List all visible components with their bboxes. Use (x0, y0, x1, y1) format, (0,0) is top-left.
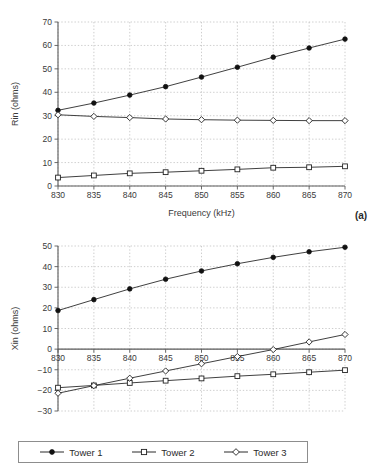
x-tick-label: 870 (338, 190, 352, 200)
open-diamond-icon (223, 447, 249, 457)
y-tick-label: 50 (43, 241, 53, 251)
data-point-marker (199, 75, 204, 80)
data-point-marker (271, 165, 276, 170)
chart-legend: Tower 1 Tower 2 Tower 3 (18, 441, 308, 463)
data-point-marker (271, 55, 276, 60)
x-tick-label: 865 (302, 353, 316, 363)
chart-b-svg: −30−20−100102030405083083584084585085586… (0, 232, 383, 422)
x-tick-label: 865 (302, 190, 316, 200)
data-point-marker (307, 165, 312, 170)
legend-label-tower-3: Tower 3 (253, 447, 286, 458)
data-point-marker (343, 368, 348, 373)
data-point-marker (199, 269, 204, 274)
x-tick-label: 870 (338, 353, 352, 363)
legend-item-tower-3[interactable]: Tower 3 (223, 447, 286, 458)
data-point-marker (91, 173, 96, 178)
data-point-marker (55, 112, 61, 118)
y-tick-label: 10 (43, 324, 53, 334)
data-point-marker (163, 368, 169, 374)
x-tick-label: 830 (51, 353, 65, 363)
data-point-marker (235, 65, 240, 70)
x-tick-label: 860 (266, 190, 280, 200)
chart-panel-a: 0102030405060708308358408458508558608658… (0, 0, 383, 232)
data-point-marker (55, 390, 61, 396)
y-tick-label: 30 (43, 111, 53, 121)
data-point-marker (271, 255, 276, 260)
figure-container: 0102030405060708308358408458508558608658… (0, 0, 383, 469)
data-point-marker (163, 378, 168, 383)
data-point-marker (343, 164, 348, 169)
x-tick-label: 860 (266, 353, 280, 363)
data-point-marker (163, 116, 169, 122)
open-square-icon (131, 447, 157, 457)
x-tick-label: 840 (123, 190, 137, 200)
data-point-marker (307, 46, 312, 51)
data-point-marker (307, 370, 312, 375)
data-point-marker (342, 118, 348, 124)
y-tick-label: 30 (43, 282, 53, 292)
panel-label: (a) (355, 210, 367, 221)
x-tick-label: 850 (194, 190, 208, 200)
data-point-marker (343, 37, 348, 42)
data-point-marker (127, 287, 132, 292)
filled-circle-icon (39, 447, 65, 457)
legend-label-tower-1: Tower 1 (69, 447, 102, 458)
data-point-marker (92, 297, 97, 302)
y-tick-label: 60 (43, 40, 53, 50)
legend-label-tower-2: Tower 2 (161, 447, 194, 458)
y-tick-label: −20 (38, 385, 53, 395)
data-point-marker (306, 339, 312, 345)
x-tick-label: 835 (87, 190, 101, 200)
data-point-marker (343, 245, 348, 250)
data-point-marker (235, 261, 240, 266)
data-point-marker (56, 175, 61, 180)
x-tick-label: 855 (230, 190, 244, 200)
y-tick-label: 20 (43, 134, 53, 144)
data-point-marker (270, 346, 276, 352)
chart-a-svg: 0102030405060708308358408458508558608658… (0, 0, 383, 232)
data-point-marker (163, 84, 168, 89)
x-tick-label: 845 (159, 190, 173, 200)
data-point-marker (92, 101, 97, 106)
x-tick-label: 845 (159, 353, 173, 363)
y-tick-label: −30 (38, 406, 53, 416)
y-tick-label: −10 (38, 365, 53, 375)
data-point-marker (127, 171, 132, 176)
data-point-marker (127, 93, 132, 98)
data-point-marker (199, 376, 204, 381)
data-point-marker (56, 385, 61, 390)
chart-panel-b: −30−20−100102030405083083584084585085586… (0, 232, 383, 422)
data-point-marker (163, 170, 168, 175)
y-tick-label: 40 (43, 262, 53, 272)
y-axis-title: Xin (ohms) (10, 307, 20, 351)
data-point-marker (307, 249, 312, 254)
x-axis-title: Frequency (kHz) (168, 421, 235, 422)
y-axis-title: Rin (ohms) (10, 82, 20, 126)
x-tick-label: 830 (51, 190, 65, 200)
data-point-marker (306, 118, 312, 124)
x-tick-label: 835 (87, 353, 101, 363)
x-tick-label: 840 (123, 353, 137, 363)
y-tick-label: 70 (43, 17, 53, 27)
y-tick-label: 10 (43, 158, 53, 168)
data-point-marker (270, 117, 276, 123)
legend-item-tower-1[interactable]: Tower 1 (39, 447, 102, 458)
data-point-marker (163, 277, 168, 282)
data-point-marker (271, 372, 276, 377)
data-point-marker (198, 117, 204, 123)
data-point-marker (235, 167, 240, 172)
y-tick-label: 20 (43, 303, 53, 313)
y-tick-label: 40 (43, 87, 53, 97)
x-axis-title: Frequency (kHz) (168, 208, 235, 218)
legend-item-tower-2[interactable]: Tower 2 (131, 447, 194, 458)
data-point-marker (234, 117, 240, 123)
data-point-marker (342, 331, 348, 337)
y-tick-label: 50 (43, 64, 53, 74)
data-point-marker (91, 113, 97, 119)
data-point-marker (235, 374, 240, 379)
data-point-marker (199, 168, 204, 173)
data-point-marker (56, 308, 61, 313)
